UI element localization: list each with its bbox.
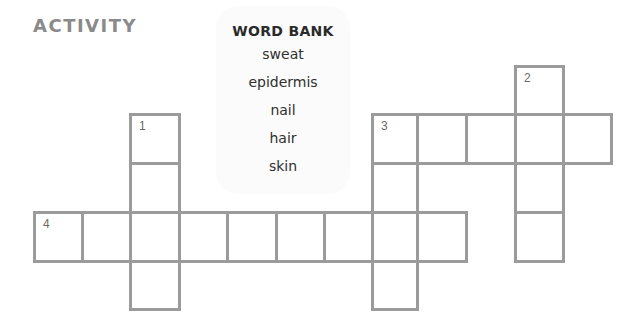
crossword-cell[interactable] <box>226 211 278 263</box>
word-bank-item: hair <box>216 124 350 152</box>
word-bank: WORD BANK sweat epidermis nail hair skin <box>216 6 350 194</box>
crossword-cell[interactable] <box>514 113 565 165</box>
crossword-cell[interactable] <box>178 211 229 263</box>
crossword-cell[interactable] <box>371 260 419 311</box>
clue-number: 2 <box>524 71 531 85</box>
crossword-cell[interactable]: 4 <box>33 211 84 263</box>
crossword-cell[interactable]: 3 <box>371 113 419 165</box>
word-bank-title: WORD BANK <box>216 23 350 39</box>
word-bank-item: epidermis <box>216 68 350 96</box>
crossword-cell[interactable] <box>323 211 374 263</box>
crossword-cell[interactable] <box>465 113 517 165</box>
clue-number: 3 <box>381 119 388 133</box>
activity-title: ACTIVITY <box>33 15 137 36</box>
crossword-cell[interactable] <box>416 211 468 263</box>
word-bank-item: nail <box>216 96 350 124</box>
crossword-cell[interactable] <box>416 113 468 165</box>
crossword-cell[interactable]: 1 <box>129 113 181 165</box>
word-bank-list: sweat epidermis nail hair skin <box>216 40 350 180</box>
crossword-cell[interactable]: 2 <box>514 65 565 116</box>
crossword-cell[interactable] <box>562 113 613 165</box>
word-bank-item: skin <box>216 152 350 180</box>
clue-number: 4 <box>43 217 50 231</box>
crossword-cell[interactable] <box>275 211 326 263</box>
crossword-cell[interactable] <box>129 162 181 214</box>
crossword-cell[interactable] <box>129 260 181 311</box>
word-bank-item: sweat <box>216 40 350 68</box>
clue-number: 1 <box>139 119 146 133</box>
crossword-cell[interactable] <box>371 162 419 214</box>
crossword-cell[interactable] <box>514 162 565 214</box>
crossword-cell[interactable] <box>371 211 419 263</box>
crossword-cell[interactable] <box>129 211 181 263</box>
crossword-cell[interactable] <box>81 211 132 263</box>
crossword-cell[interactable] <box>514 211 565 263</box>
